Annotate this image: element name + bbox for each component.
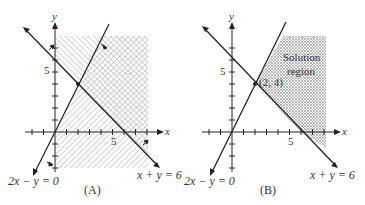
line-arrow-icon: [202, 26, 209, 32]
line-label-2x-minus-y-a: 2x − y = 0: [8, 174, 59, 189]
caption-b: (B): [260, 183, 276, 198]
intersection-point-a: [76, 82, 80, 86]
graph-panel-a: y x 5 5 2x − y = 0 x + y = 6 (A): [0, 0, 182, 205]
y-axis-arrow-icon: [229, 22, 235, 29]
hatch-regions-a: [55, 0, 148, 168]
line-label-x-plus-y-a: x + y = 6: [137, 168, 182, 183]
x-axis-label-b: x: [342, 125, 347, 137]
intersection-point-b: [253, 82, 257, 86]
solution-region-label-line1: Solution: [283, 51, 320, 63]
line-label-2x-minus-y-b: 2x − y = 0: [184, 174, 235, 189]
x-axis-label-a: x: [165, 125, 170, 137]
x-axis-arrow-icon: [157, 129, 164, 135]
line-label-x-plus-y-b: x + y = 6: [310, 168, 355, 183]
y-tick-label-5-b: 5: [220, 65, 226, 77]
line-arrow-icon: [23, 27, 30, 33]
graph-panel-b: y x 5 5 (2, 4) Solution region 2x − y = …: [182, 0, 365, 205]
x-tick-label-5-b: 5: [288, 135, 294, 147]
y-axis-label-b: y: [229, 10, 234, 22]
y-tick-label-5-a: 5: [44, 64, 50, 76]
y-axis-label-a: y: [52, 10, 57, 22]
caption-a: (A): [84, 183, 101, 198]
intersection-label: (2, 4): [259, 76, 283, 88]
x-tick-label-5-a: 5: [111, 135, 117, 147]
x-axis-arrow-icon: [334, 129, 341, 135]
y-axis-arrow-icon: [52, 22, 58, 29]
solution-region-label-line2: region: [287, 65, 315, 77]
